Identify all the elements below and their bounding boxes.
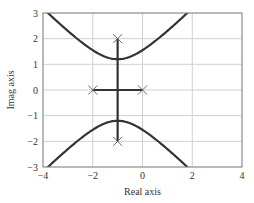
x-tick-labels: −4−2024 xyxy=(38,170,245,181)
y-tick-label: −2 xyxy=(27,136,38,147)
x-tick-label: 2 xyxy=(190,170,195,181)
x-tick-label: 4 xyxy=(240,170,245,181)
x-tick-label: 0 xyxy=(140,170,145,181)
y-tick-label: 0 xyxy=(33,85,38,96)
y-tick-label: 1 xyxy=(33,59,38,70)
root-locus-chart: −4−2024 −3−2−10123 Real axis Imag axis xyxy=(0,0,254,203)
x-axis-label: Real axis xyxy=(124,186,161,197)
x-tick-label: −2 xyxy=(87,170,98,181)
y-tick-label: −3 xyxy=(27,162,38,173)
y-tick-label: 2 xyxy=(33,33,38,44)
y-tick-label: −1 xyxy=(27,110,38,121)
y-tick-label: 3 xyxy=(33,8,38,19)
x-tick-label: −4 xyxy=(38,170,49,181)
y-axis-label: Imag axis xyxy=(5,70,16,109)
y-tick-labels: −3−2−10123 xyxy=(27,8,38,173)
